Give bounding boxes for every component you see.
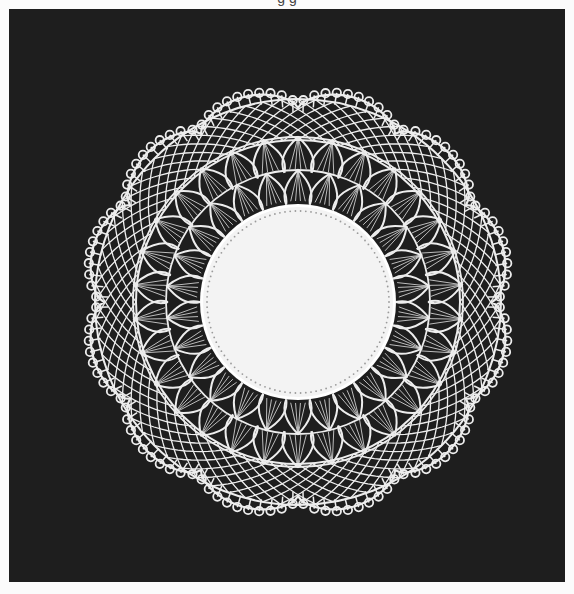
photo-panel [9, 9, 565, 582]
lace-doily-image [9, 9, 565, 582]
cropped-caption-text: g g [0, 0, 574, 5]
linen-center [200, 204, 396, 400]
